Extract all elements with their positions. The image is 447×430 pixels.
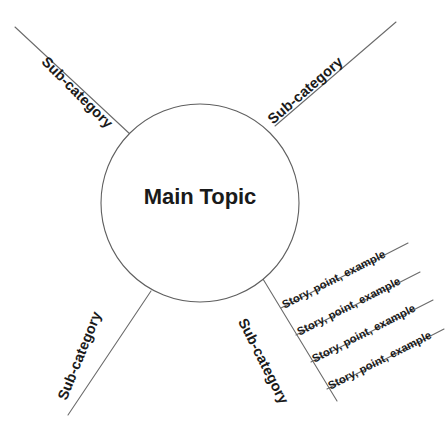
- central-topic-label: Main Topic: [100, 184, 300, 210]
- mind-map-diagram: Main Topic Sub-category Sub-category Sub…: [0, 0, 447, 430]
